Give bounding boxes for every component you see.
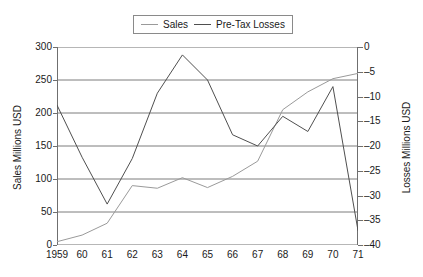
y-axis-left-tick-label: 250 (12, 75, 52, 85)
y-axis-right-tick-label: –20 (364, 141, 404, 151)
y-axis-left-tick-mark (53, 245, 57, 246)
chart-figure: Sales Pre-Tax Losses Sales Millions USD … (0, 0, 423, 277)
y-axis-right-tick-mark (358, 72, 363, 73)
y-axis-left-tick-label: 100 (12, 174, 52, 184)
y-axis-right-tick-label: –15 (364, 116, 404, 126)
y-axis-right-tick-label: –5 (364, 67, 404, 77)
legend-swatch-losses-icon (194, 24, 211, 25)
y-axis-left-tick-label: 300 (12, 42, 52, 52)
y-axis-right-tick-label: –30 (364, 191, 404, 201)
plot-area (57, 47, 358, 245)
legend-item-sales: Sales (141, 19, 188, 30)
y-axis-left-tick-label: 200 (12, 108, 52, 118)
y-axis-right-tick-label: 0 (364, 42, 404, 52)
chart-legend: Sales Pre-Tax Losses (133, 15, 293, 34)
series-line-pre-tax-losses (57, 55, 358, 231)
y-axis-left-tick-label: 150 (12, 141, 52, 151)
y-axis-right-tick-mark (358, 171, 363, 172)
y-axis-right-tick-mark (358, 146, 363, 147)
series-line-sales (57, 73, 358, 241)
x-axis-tick-label: 71 (338, 249, 378, 260)
y-axis-left-tick-label: 50 (12, 207, 52, 217)
plot-svg (57, 47, 358, 245)
y-axis-right-tick-mark (358, 121, 363, 122)
y-axis-right-tick-label: –10 (364, 92, 404, 102)
legend-label-sales: Sales (163, 19, 188, 30)
legend-label-pre-tax-losses: Pre-Tax Losses (216, 19, 285, 30)
y-axis-right-tick-mark (358, 245, 363, 246)
y-axis-right-tick-mark (358, 220, 363, 221)
y-axis-right-tick-mark (358, 97, 363, 98)
legend-item-pre-tax-losses: Pre-Tax Losses (194, 19, 285, 30)
y-axis-right-tick-mark (358, 196, 363, 197)
legend-swatch-sales-icon (141, 24, 158, 25)
y-axis-right-tick-mark (358, 47, 363, 48)
y-axis-right-tick-label: –35 (364, 215, 404, 225)
y-axis-right-tick-label: –25 (364, 166, 404, 176)
